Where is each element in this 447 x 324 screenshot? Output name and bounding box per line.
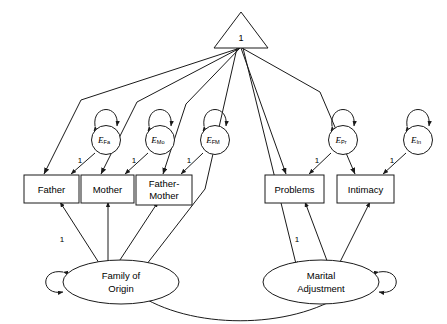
path-ma-to-intimacy (338, 202, 370, 266)
node-intimacy[interactable]: Intimacy (337, 175, 394, 203)
latent-to-indicator-paths (60, 202, 370, 266)
coef-foo-to-father: 1 (60, 235, 65, 244)
node-e-fa[interactable]: EFa (92, 126, 121, 155)
coef-emo-to-mother: 1 (132, 156, 137, 165)
path-epr-to-problems (309, 153, 331, 174)
node-e-fm-subscript: FM (212, 140, 220, 146)
coef-epr-to-problems: 1 (315, 156, 320, 165)
loop-efa-variance (95, 110, 117, 127)
node-marital-adjustment[interactable]: Marital Adjustment (263, 260, 379, 304)
loop-epr-variance (332, 110, 354, 127)
node-e-in-subscript: In (416, 140, 421, 146)
node-e-fm[interactable]: EFM (201, 126, 230, 155)
coef-ma-to-problems: 1 (295, 235, 300, 244)
diagram-canvas: Father Mother Father- Mother Problems In… (0, 0, 447, 324)
node-e-mo[interactable]: EMo (146, 126, 175, 155)
node-problems[interactable]: Problems (265, 175, 324, 203)
coef-ein-to-intimacy: 1 (390, 156, 395, 165)
node-mother[interactable]: Mother (81, 175, 134, 203)
node-e-pr-subscript: Pr (341, 140, 347, 146)
path-foo-to-father (60, 202, 101, 266)
path-constant-to-mother (101, 48, 240, 174)
path-efm-to-fathermother (181, 153, 203, 174)
constant-paths-group (44, 48, 355, 269)
loop-emo-variance (149, 110, 171, 127)
node-marital-adjustment-label-line1: Marital (307, 270, 336, 281)
node-e-fa-subscript: Fa (103, 140, 110, 146)
latent-ellipses-group: Family of Origin Marital Adjustment (63, 260, 379, 304)
path-emo-to-mother (125, 153, 148, 174)
node-father-mother-label-line2: Mother (149, 190, 179, 201)
constant-triangle-label: 1 (238, 33, 243, 43)
node-family-of-origin[interactable]: Family of Origin (63, 260, 179, 304)
path-constant-to-marital-adjustment (243, 48, 297, 268)
node-e-mo-subscript: Mo (157, 140, 165, 146)
constant-triangle[interactable]: 1 (214, 12, 268, 48)
indicator-boxes-group: Father Mother Father- Mother Problems In… (24, 175, 394, 205)
node-e-pr[interactable]: EPr (329, 126, 358, 155)
loop-family-of-origin-variance (46, 272, 63, 293)
path-ein-to-intimacy (383, 153, 406, 174)
node-family-of-origin-label-line2: Origin (108, 283, 133, 294)
node-father-label: Father (38, 184, 65, 195)
path-ma-to-problems (305, 202, 329, 266)
sem-path-diagram: Father Mother Father- Mother Problems In… (0, 0, 447, 324)
node-family-of-origin-label-line1: Family of (102, 270, 141, 281)
path-constant-to-father (44, 48, 240, 174)
loop-ein-variance (407, 110, 429, 127)
node-problems-label: Problems (274, 184, 314, 195)
node-intimacy-label: Intimacy (348, 184, 384, 195)
error-circles-group: EFa EMo EFM EPr EIn (92, 126, 433, 155)
error-to-indicator-paths (71, 153, 406, 174)
path-foo-to-fathermother (116, 202, 158, 266)
node-father-mother[interactable]: Father- Mother (136, 175, 192, 205)
coef-efm-to-fathermother: 1 (187, 156, 192, 165)
node-e-in[interactable]: EIn (404, 126, 433, 155)
node-mother-label: Mother (93, 184, 123, 195)
loop-marital-adjustment-variance (379, 272, 396, 293)
node-father-mother-label-line1: Father- (149, 178, 180, 189)
node-father[interactable]: Father (24, 175, 79, 203)
path-efa-to-father (71, 153, 95, 174)
coef-efa-to-father: 1 (78, 156, 83, 165)
node-marital-adjustment-label-line2: Adjustment (297, 283, 345, 294)
